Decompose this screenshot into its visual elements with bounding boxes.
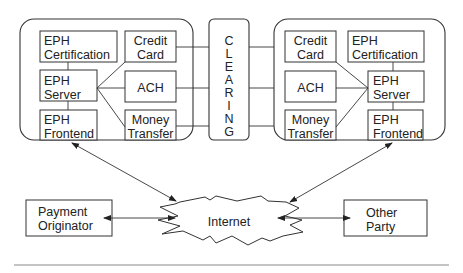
right-eph-frontend-box: EPH Frontend (368, 110, 423, 141)
right-eph-server-box: EPH Server (368, 71, 424, 102)
left-money-transfer-box: Money Transfer (125, 110, 176, 141)
right-eph-certification-box: EPH Certification (348, 31, 424, 62)
svg-text:G: G (224, 125, 234, 139)
svg-text:Card: Card (297, 48, 324, 62)
svg-text:EPH: EPH (44, 34, 70, 48)
svg-text:Originator: Originator (38, 219, 93, 233)
left-credit-card-box: Credit Card (125, 31, 176, 62)
svg-text:I: I (227, 99, 230, 113)
right-ach-box: ACH (285, 71, 336, 102)
internet-cloud: Internet (158, 196, 303, 245)
svg-text:Other: Other (366, 206, 397, 220)
right-credit-card-box: Credit Card (285, 31, 336, 62)
svg-text:Transfer: Transfer (127, 127, 173, 141)
svg-text:EPH: EPH (44, 74, 70, 88)
svg-text:Payment: Payment (38, 205, 88, 219)
svg-text:Internet: Internet (208, 215, 251, 229)
svg-text:Credit: Credit (134, 34, 168, 48)
svg-text:ACH: ACH (137, 81, 163, 95)
clearing-box: C L E A R I N G (209, 19, 249, 140)
svg-text:Card: Card (137, 48, 164, 62)
arrow-right-frontend-internet (290, 143, 392, 202)
payment-originator-box: Payment Originator (26, 200, 112, 236)
svg-text:Money: Money (292, 113, 330, 127)
svg-text:Server: Server (373, 88, 410, 102)
left-eph-certification-box: EPH Certification (40, 31, 117, 62)
svg-text:Frontend: Frontend (44, 127, 94, 141)
svg-text:Party: Party (366, 220, 396, 234)
svg-text:Frontend: Frontend (373, 127, 423, 141)
svg-text:R: R (224, 86, 233, 100)
arrow-left-frontend-internet (72, 143, 176, 201)
svg-text:Transfer: Transfer (287, 127, 333, 141)
right-money-transfer-box: Money Transfer (285, 110, 336, 141)
svg-text:Server: Server (44, 88, 81, 102)
svg-text:EPH: EPH (373, 113, 399, 127)
other-party-box: Other Party (344, 200, 427, 236)
svg-text:C: C (224, 34, 233, 48)
svg-text:A: A (225, 73, 234, 87)
right-system-group: Credit Card ACH Money Transfer EPH Certi… (274, 19, 445, 141)
svg-text:Certification: Certification (352, 48, 418, 62)
left-system-group: EPH Certification EPH Server EPH Fronten… (20, 19, 193, 141)
svg-text:EPH: EPH (352, 34, 378, 48)
eph-architecture-diagram: EPH Certification EPH Server EPH Fronten… (0, 0, 463, 273)
svg-text:Money: Money (132, 113, 170, 127)
svg-text:L: L (226, 47, 233, 61)
svg-text:EPH: EPH (373, 74, 399, 88)
left-eph-server-box: EPH Server (40, 70, 97, 102)
svg-text:EPH: EPH (44, 113, 70, 127)
svg-text:N: N (224, 112, 233, 126)
svg-text:ACH: ACH (297, 81, 323, 95)
svg-text:E: E (225, 60, 233, 74)
svg-text:Credit: Credit (294, 34, 328, 48)
left-eph-frontend-box: EPH Frontend (40, 110, 97, 141)
svg-text:Certification: Certification (44, 48, 110, 62)
left-ach-box: ACH (125, 71, 176, 102)
